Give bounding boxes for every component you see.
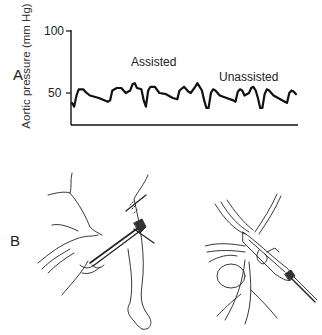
- infant-groin-cannulation-drawing: [30, 165, 170, 335]
- aortic-pressure-chart: [0, 0, 322, 140]
- vessel-cannulation-detail-drawing: [205, 190, 320, 330]
- pressure-waveform: [72, 83, 296, 108]
- panel-b-label: B: [10, 232, 20, 249]
